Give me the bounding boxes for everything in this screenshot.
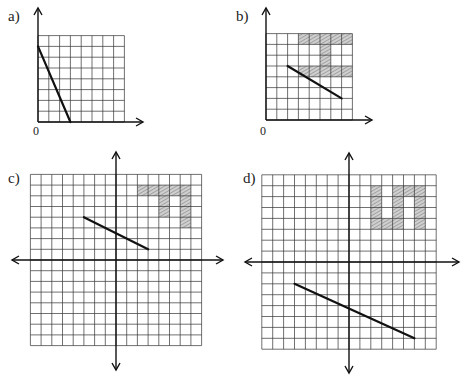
shaded-region [298,66,352,77]
coordinate-grids [0,0,468,381]
shaded-region [137,185,191,196]
shaded-region [414,197,425,230]
panel-a-grid [34,8,143,126]
line-segment [38,46,70,122]
shaded-region [298,34,352,45]
panel-c-grid [12,152,223,370]
shaded-region [180,196,191,228]
line-segment [295,284,415,339]
worksheet-figure: a) 0 b) 0 c) d) [0,0,468,381]
panel-b-grid [262,8,372,124]
panel-d-grid [245,153,459,373]
shaded-region [393,186,426,197]
